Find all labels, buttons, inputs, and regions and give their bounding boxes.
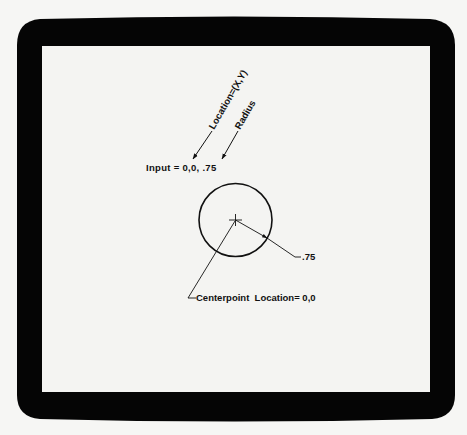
- centerpoint-label: Centerpoint Location= 0,0: [196, 292, 316, 303]
- screen-area: [42, 46, 430, 392]
- radius-value-label: .75: [302, 251, 316, 262]
- diagram-canvas: Location=(X,Y) Radius Input = 0,0, .75 .…: [0, 0, 467, 435]
- input-text: Input = 0,0, .75: [146, 162, 217, 173]
